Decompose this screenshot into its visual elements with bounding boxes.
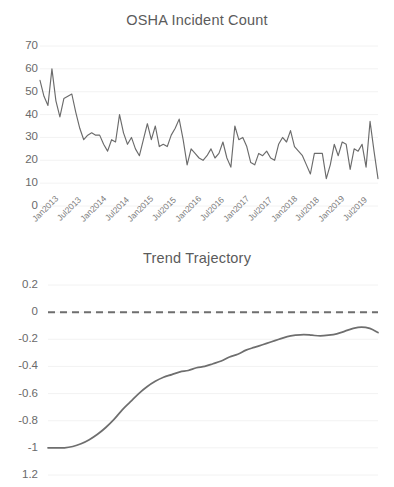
y-tick-label: 10 <box>25 177 38 189</box>
incident-plot-area <box>40 46 378 206</box>
y-tick-label: 50 <box>25 86 38 98</box>
y-tick-label: 0.2 <box>22 279 38 291</box>
incident-line-chart-svg <box>40 46 378 206</box>
y-tick-label: 1.2 <box>22 469 38 481</box>
incident-count-series-line <box>40 69 378 179</box>
incident-gridlines <box>40 46 378 206</box>
y-tick-label: -0.2 <box>18 334 38 346</box>
y-tick-label: 30 <box>25 132 38 144</box>
trend-y-axis-labels: 0.20-0.2-0.4-0.6-0.8-11.2 <box>2 285 38 475</box>
trend-chart-title: Trend Trajectory <box>0 250 394 266</box>
y-tick-label: -0.4 <box>18 361 38 373</box>
incident-x-axis-labels: Jan2013Jul2013Jan2014Jul2014Jan2015Jul20… <box>40 208 378 244</box>
y-tick-label: 60 <box>25 63 38 75</box>
y-tick-label: -1 <box>28 442 38 454</box>
y-tick-label: -0.6 <box>18 388 38 400</box>
incident-chart-title: OSHA Incident Count <box>0 12 394 28</box>
y-tick-label: 70 <box>25 40 38 52</box>
trend-gridlines <box>48 285 378 475</box>
y-tick-label: 20 <box>25 155 38 167</box>
y-tick-label: 40 <box>25 109 38 121</box>
trend-trajectory-series-line <box>48 327 378 448</box>
incident-y-axis-labels: 010203040506070 <box>2 46 38 206</box>
y-tick-label: 0 <box>32 306 38 318</box>
incident-count-chart-panel: OSHA Incident Count 010203040506070 Jan2… <box>0 0 394 243</box>
y-tick-label: -0.8 <box>18 415 38 427</box>
trend-plot-area <box>48 285 378 475</box>
trend-line-chart-svg <box>48 285 378 475</box>
